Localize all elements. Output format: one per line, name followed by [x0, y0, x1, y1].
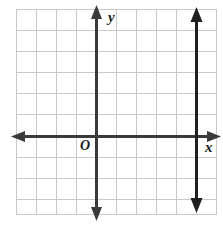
- origin-label: O: [80, 139, 90, 153]
- x-axis-left-arrowhead: [11, 131, 25, 142]
- graph-line-bottom-arrowhead: [191, 198, 203, 213]
- grid-vertical-lines: [17, 9, 217, 215]
- y-axis-top-arrowhead: [91, 5, 102, 19]
- graph-line-x-equals-5: [191, 7, 203, 213]
- y-axis-label: y: [108, 10, 115, 25]
- coordinate-plane-svg: [0, 0, 223, 227]
- y-axis: [91, 5, 102, 221]
- x-axis-label: x: [205, 140, 213, 155]
- coordinate-plane-figure: y x O: [0, 0, 223, 227]
